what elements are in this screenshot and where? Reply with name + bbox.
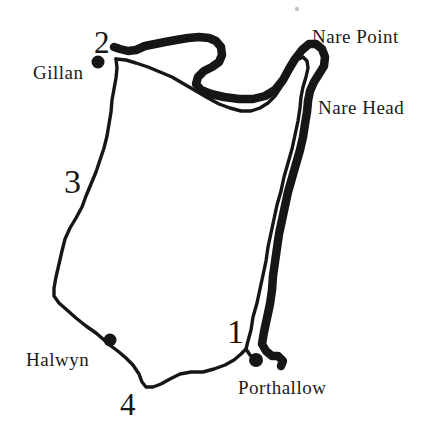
waypoint-number-1: 1 [227, 315, 244, 349]
route-path-inland [54, 59, 246, 387]
route-path-coastal [116, 57, 308, 359]
porthallow-dot [249, 353, 263, 367]
scan-artifact-mark [295, 7, 299, 11]
waypoint-number-4: 4 [120, 389, 136, 420]
hand-drawn-walk-map: Nare Point Nare Head Gillan Halwyn Porth… [0, 0, 440, 447]
coastline-path [114, 37, 325, 366]
label-halwyn: Halwyn [26, 350, 89, 369]
label-nare-head: Nare Head [318, 98, 404, 117]
label-gillan: Gillan [33, 63, 84, 82]
halwyn-dot [104, 334, 117, 347]
label-porthallow: Porthallow [238, 378, 326, 397]
waypoint-number-3: 3 [64, 165, 81, 199]
label-nare-point: Nare Point [312, 27, 399, 46]
waypoint-number-2: 2 [94, 27, 110, 58]
